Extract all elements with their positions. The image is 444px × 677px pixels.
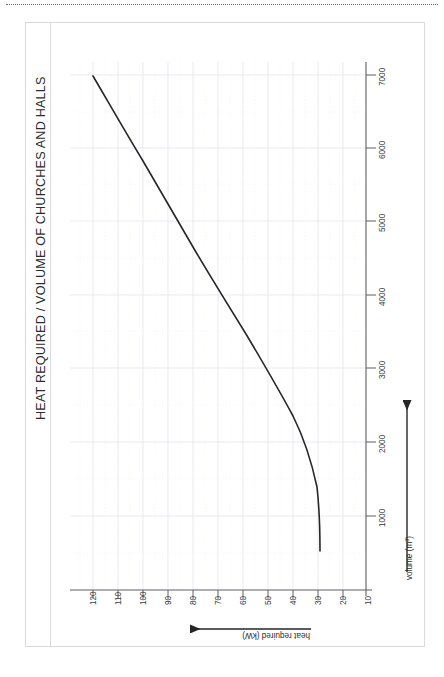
minor-gridlines [70, 62, 365, 590]
page-canvas: HEAT REQUIRED / VOLUME OF CHURCHES AND H… [0, 0, 444, 677]
heat-tick-label: 110 [114, 592, 123, 605]
volume-axis-label-group: volume (m3) [404, 400, 414, 580]
heat-tick-label: 30 [314, 595, 323, 605]
volume-tick-label: 4000 [378, 287, 387, 306]
heat-tick-label: 80 [189, 595, 198, 605]
heat-tick-label: 60 [239, 595, 248, 605]
volume-axis-tick-labels: 7000 6000 5000 4000 3000 2000 1000 [378, 67, 387, 527]
heat-tick-label: 20 [339, 595, 348, 605]
heat-tick-label: 70 [214, 595, 223, 605]
chart-figure: 120 110 100 90 80 70 60 50 40 30 20 10 7… [0, 0, 444, 677]
heat-tick-label: 50 [264, 595, 273, 605]
volume-tick-label: 1000 [378, 508, 387, 527]
heat-tick-label: 40 [289, 595, 298, 605]
heat-axis-tick-labels: 120 110 100 90 80 70 60 50 40 30 20 10 [89, 591, 373, 605]
data-series-line [93, 76, 320, 551]
volume-axis-label: volume (m3) [404, 536, 414, 580]
volume-axis-ticks [366, 75, 376, 516]
heat-axis-label-group: heat required (kW) [190, 629, 311, 640]
volume-tick-label: 6000 [378, 140, 387, 159]
heat-tick-label: 120 [89, 591, 98, 605]
volume-tick-label: 5000 [378, 213, 387, 232]
major-gridlines [70, 62, 365, 590]
heat-tick-label: 10 [364, 595, 373, 605]
heat-tick-label: 100 [139, 591, 148, 605]
volume-tick-label: 3000 [378, 360, 387, 379]
heat-tick-label: 90 [164, 595, 173, 605]
volume-tick-label: 7000 [378, 67, 387, 86]
heat-axis-label: heat required (kW) [242, 631, 310, 640]
volume-tick-label: 2000 [378, 434, 387, 453]
